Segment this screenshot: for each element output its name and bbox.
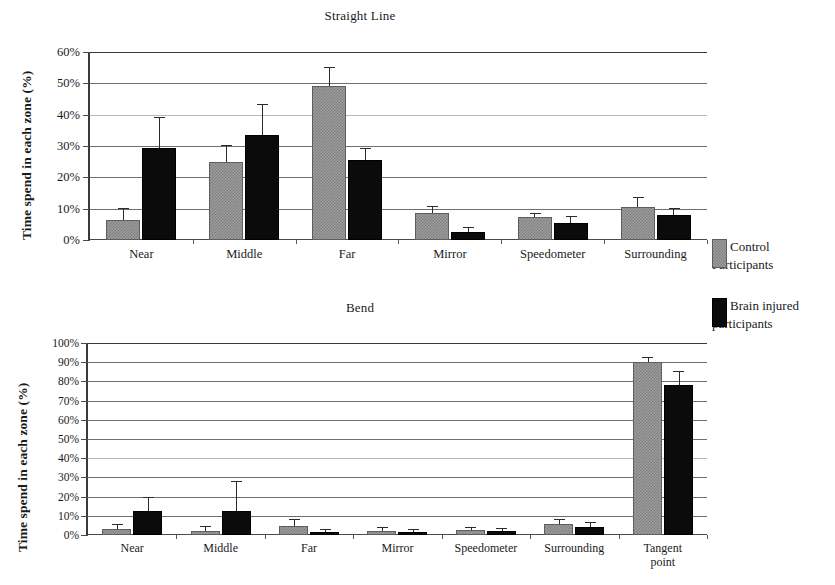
error-bar-cap bbox=[257, 104, 268, 105]
x-axis-tick bbox=[707, 535, 708, 539]
bar-control[interactable] bbox=[544, 524, 573, 535]
category-group: Far bbox=[296, 52, 399, 240]
x-axis-tick bbox=[442, 535, 443, 539]
bar-injured[interactable] bbox=[310, 532, 339, 535]
bar-injured[interactable] bbox=[451, 232, 485, 240]
chart-panel-straight-line: Straight Line Time spend in each zone (%… bbox=[0, 0, 720, 290]
y-axis-tick bbox=[81, 497, 88, 498]
x-axis-tick bbox=[398, 240, 399, 244]
bar-control[interactable] bbox=[367, 531, 396, 535]
error-bar bbox=[648, 358, 649, 362]
bar-control[interactable] bbox=[191, 531, 220, 535]
bar-injured[interactable] bbox=[142, 148, 176, 240]
x-axis-tick-label: Speedometer bbox=[442, 541, 530, 555]
y-axis-tick-label: 60% bbox=[58, 414, 79, 426]
bar-control[interactable] bbox=[102, 529, 131, 535]
y-axis-tick bbox=[83, 209, 90, 210]
bar-injured[interactable] bbox=[575, 527, 604, 535]
x-axis-tick bbox=[296, 240, 297, 244]
y-axis-tick bbox=[83, 52, 90, 53]
error-bar-cap bbox=[554, 519, 565, 520]
error-bar bbox=[590, 523, 591, 528]
x-axis-tick bbox=[176, 535, 177, 539]
error-bar bbox=[117, 525, 118, 529]
x-axis-tick bbox=[530, 535, 531, 539]
legend-entry-injured: Brain injured participants bbox=[712, 296, 835, 333]
error-bar-cap bbox=[221, 145, 232, 146]
y-axis-tick-label: 10% bbox=[57, 201, 80, 216]
y-axis-tick-label: 20% bbox=[58, 491, 79, 503]
bar-injured[interactable] bbox=[222, 511, 251, 535]
x-axis-tick bbox=[501, 240, 502, 244]
error-bar-cap bbox=[427, 206, 438, 207]
figure-root: Straight Line Time spend in each zone (%… bbox=[0, 0, 835, 585]
bar-injured[interactable] bbox=[245, 135, 279, 240]
bar-control[interactable] bbox=[312, 86, 346, 240]
bar-control[interactable] bbox=[415, 213, 449, 240]
y-axis-tick bbox=[83, 240, 90, 241]
bar-control[interactable] bbox=[633, 362, 662, 535]
bar-injured[interactable] bbox=[657, 215, 691, 240]
bar-injured[interactable] bbox=[487, 531, 516, 535]
bar-injured[interactable] bbox=[348, 160, 382, 240]
bar-control[interactable] bbox=[456, 530, 485, 535]
error-bar bbox=[382, 528, 383, 531]
category-group: Mirror bbox=[353, 343, 441, 535]
legend: Control Participants Brain injured parti… bbox=[712, 237, 835, 354]
error-bar bbox=[226, 146, 227, 162]
x-axis-tick bbox=[604, 240, 605, 244]
y-axis-label-bend: Time spend in each zone (%) bbox=[15, 383, 31, 552]
y-axis-tick bbox=[81, 420, 88, 421]
y-axis-label-straight-line: Time spend in each zone (%) bbox=[19, 71, 35, 240]
error-bar bbox=[432, 207, 433, 213]
category-group: Surrounding bbox=[530, 343, 618, 535]
bar-control[interactable] bbox=[106, 220, 140, 240]
error-bar bbox=[679, 372, 680, 385]
error-bar-cap bbox=[289, 519, 300, 520]
legend-swatch-control-icon bbox=[712, 239, 727, 268]
x-axis-tick bbox=[193, 240, 194, 244]
category-group: Surrounding bbox=[604, 52, 707, 240]
bar-control[interactable] bbox=[279, 526, 308, 535]
error-bar bbox=[534, 214, 535, 217]
bar-control[interactable] bbox=[518, 217, 552, 241]
plot-area-straight-line: 0%10%20%30%40%50%60%NearMiddleFarMirrorS… bbox=[88, 52, 707, 240]
y-axis-tick-label: 60% bbox=[57, 45, 80, 60]
category-group: Speedometer bbox=[501, 52, 604, 240]
error-bar bbox=[236, 482, 237, 511]
x-axis-tick-label: Mirror bbox=[353, 541, 441, 555]
category-group: Middle bbox=[176, 343, 264, 535]
y-axis-tick bbox=[83, 177, 90, 178]
bar-injured[interactable] bbox=[133, 511, 162, 535]
x-axis-tick-label: Middle bbox=[193, 247, 296, 262]
chart-title-straight-line: Straight Line bbox=[60, 8, 660, 24]
category-group: Speedometer bbox=[442, 343, 530, 535]
error-bar bbox=[365, 149, 366, 160]
bar-injured[interactable] bbox=[554, 223, 588, 240]
y-axis-tick bbox=[83, 83, 90, 84]
error-bar-cap bbox=[408, 529, 419, 530]
y-axis-tick-label: 70% bbox=[58, 395, 79, 407]
x-axis-tick-label: Near bbox=[90, 247, 193, 262]
y-axis-tick bbox=[81, 516, 88, 517]
x-axis-tick bbox=[707, 240, 708, 244]
error-bar bbox=[502, 529, 503, 531]
error-bar bbox=[205, 527, 206, 531]
x-axis-tick-label: Mirror bbox=[399, 247, 502, 262]
y-axis-tick-label: 90% bbox=[58, 356, 79, 368]
category-group: Far bbox=[265, 343, 353, 535]
y-axis-tick-label: 80% bbox=[58, 375, 79, 387]
error-bar-cap bbox=[143, 497, 154, 498]
y-axis-tick-label: 50% bbox=[57, 76, 80, 91]
error-bar bbox=[159, 118, 160, 148]
error-bar-cap bbox=[463, 227, 474, 228]
bar-control[interactable] bbox=[621, 207, 655, 240]
y-axis-tick-label: 50% bbox=[58, 433, 79, 445]
error-bar-cap bbox=[669, 208, 680, 209]
error-bar bbox=[413, 530, 414, 532]
bar-control[interactable] bbox=[209, 162, 243, 240]
bar-injured[interactable] bbox=[664, 385, 693, 535]
x-axis-tick-label: Surrounding bbox=[604, 247, 707, 262]
bar-injured[interactable] bbox=[398, 532, 427, 535]
error-bar-cap bbox=[118, 208, 129, 209]
